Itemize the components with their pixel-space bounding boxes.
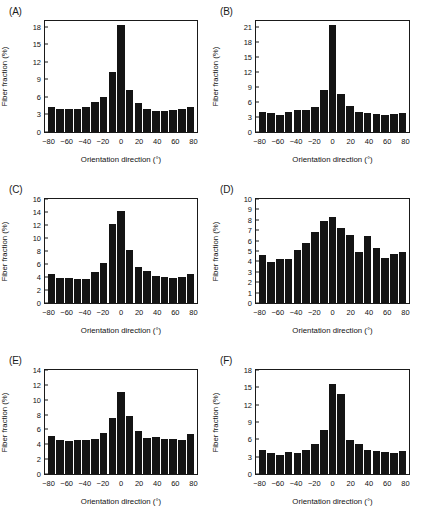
y-axis-label-f: Fiber fraction (%)	[209, 369, 223, 475]
y-tick-label: 6	[15, 425, 41, 434]
bar	[143, 438, 151, 474]
bar	[91, 102, 99, 132]
bar	[381, 258, 389, 303]
bar	[117, 211, 125, 303]
bar	[161, 439, 169, 474]
x-tick	[49, 471, 50, 474]
bar	[259, 255, 267, 303]
x-tick	[404, 471, 405, 474]
y-tick-label: 2	[15, 455, 41, 464]
x-tick	[138, 300, 139, 303]
y-tick-label: 6	[15, 260, 41, 269]
bar	[346, 440, 354, 474]
y-tick	[256, 422, 259, 423]
x-tick	[156, 471, 157, 474]
y-tick-label: 15	[15, 40, 41, 49]
x-tick	[121, 300, 122, 303]
panel-b: (B)Fiber fraction (%)036912151821−80−60−…	[211, 0, 423, 178]
bar	[109, 418, 117, 474]
y-tick-label: 4	[15, 273, 41, 282]
x-tick-label: 60	[383, 308, 391, 317]
y-tick	[256, 240, 259, 241]
plot-area-d: 012345678910	[255, 198, 410, 304]
bar	[187, 434, 195, 474]
x-tick	[103, 129, 104, 132]
x-tick-label: −40	[78, 308, 91, 317]
y-tick	[256, 439, 259, 440]
bar	[48, 274, 56, 303]
bar	[302, 243, 310, 303]
x-tick	[368, 300, 369, 303]
x-tick	[332, 129, 333, 132]
bar	[355, 252, 363, 303]
y-tick	[256, 219, 259, 220]
y-axis-label-b: Fiber fraction (%)	[209, 20, 223, 133]
y-tick-label: 1	[226, 288, 252, 297]
bar	[294, 110, 302, 132]
x-tick	[278, 129, 279, 132]
y-tick	[45, 251, 48, 252]
x-tick-label: 80	[189, 308, 197, 317]
y-tick-label: 4	[226, 257, 252, 266]
bar	[294, 250, 302, 303]
y-tick	[256, 282, 259, 283]
x-tick	[296, 129, 297, 132]
x-tick	[404, 129, 405, 132]
y-axis-label-text-c: Fiber fraction (%)	[1, 221, 10, 281]
y-tick	[45, 44, 48, 45]
bar	[100, 433, 108, 474]
y-tick	[256, 42, 259, 43]
x-axis-c: −80−60−40−20020406080	[44, 305, 198, 319]
y-tick	[256, 117, 259, 118]
y-tick-label: 3	[226, 267, 252, 276]
x-axis-e: −80−60−40−20020406080	[44, 476, 198, 490]
y-tick-label: 7	[226, 226, 252, 235]
bar	[56, 278, 64, 303]
bar	[337, 228, 345, 303]
x-tick-label: 0	[119, 479, 123, 488]
y-tick-label: 21	[226, 23, 252, 32]
y-axis-label-text-e: Fiber fraction (%)	[1, 392, 10, 452]
bar	[390, 453, 398, 474]
bar	[399, 252, 407, 303]
bar	[337, 394, 345, 474]
plot-area-a: 0369121518	[44, 20, 198, 133]
x-tick	[386, 129, 387, 132]
x-tick	[386, 300, 387, 303]
bar	[100, 263, 108, 303]
bar	[48, 436, 56, 474]
y-tick-label: 10	[15, 234, 41, 243]
bar	[187, 274, 195, 303]
y-tick-label: 3	[15, 110, 41, 119]
bar	[143, 271, 151, 304]
bar	[267, 453, 275, 474]
x-tick	[368, 129, 369, 132]
y-tick-label: 0	[226, 299, 252, 308]
x-tick	[260, 471, 261, 474]
bar	[152, 276, 160, 303]
bar	[74, 279, 82, 303]
bar	[135, 267, 143, 303]
x-tick-label: 40	[365, 479, 373, 488]
y-tick-label: 9	[15, 75, 41, 84]
x-tick	[296, 300, 297, 303]
bar	[100, 97, 108, 132]
x-tick-label: 80	[401, 137, 409, 146]
panel-label-e: (E)	[9, 355, 22, 366]
y-axis-label-text-f: Fiber fraction (%)	[212, 392, 221, 452]
y-tick	[256, 474, 259, 475]
y-tick	[45, 264, 48, 265]
y-tick	[256, 303, 259, 304]
y-tick-label: 15	[226, 53, 252, 62]
y-tick	[256, 387, 259, 388]
x-tick	[192, 129, 193, 132]
y-tick	[45, 212, 48, 213]
x-tick	[404, 300, 405, 303]
panel-label-d: (D)	[220, 184, 233, 195]
y-tick	[45, 303, 48, 304]
y-tick-label: 14	[15, 208, 41, 217]
x-axis-f: −80−60−40−20020406080	[255, 476, 410, 490]
y-tick	[256, 199, 259, 200]
x-tick	[174, 300, 175, 303]
x-tick	[67, 300, 68, 303]
